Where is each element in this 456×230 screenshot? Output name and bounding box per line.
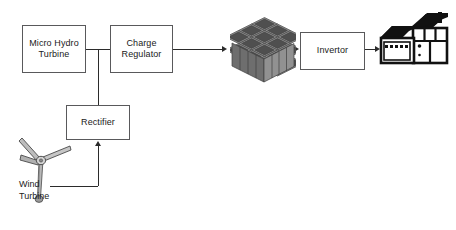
node-invertor[interactable]: Invertor — [300, 32, 365, 70]
connector-riser-to-rectifier — [98, 146, 99, 186]
battery-bank-isometric-stack-icon — [230, 12, 296, 88]
arrowhead-to-battery-bank — [222, 46, 227, 52]
node-wind-turbine-label: Wind Turbine — [19, 178, 71, 202]
power-system-diagram: Micro Hydro Turbine Charge Regulator Rec… — [0, 0, 456, 230]
connector-charge-regulator-to-battery-bank — [173, 49, 222, 50]
node-battery-bank[interactable]: Battery Bank — [230, 12, 296, 88]
arrowhead-to-rectifier — [95, 141, 101, 146]
node-micro-hydro-turbine[interactable]: Micro Hydro Turbine — [22, 25, 86, 73]
connector-junction-to-rectifier — [98, 49, 99, 105]
house-with-garage-glyph — [378, 10, 450, 66]
house-icon[interactable] — [378, 10, 450, 66]
node-rectifier[interactable]: Rectifier — [66, 105, 130, 140]
node-charge-regulator[interactable]: Charge Regulator — [110, 25, 173, 73]
